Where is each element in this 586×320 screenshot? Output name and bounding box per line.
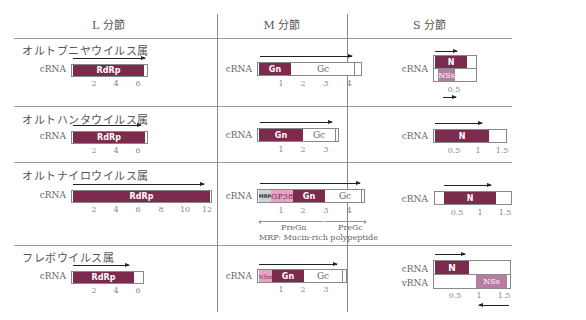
mrp-footnote: MRP: Mucin-rich polypeptide [259,233,378,242]
scale-tick: 3 [323,285,328,294]
direction-arrow [73,125,141,126]
scale-tick: 1 [475,146,480,155]
scale-tick: 1 [278,206,283,215]
n-gene: N [435,261,469,274]
gn-gene: Gn [259,129,303,141]
direction-arrow [443,97,456,98]
gn-gene: Gn [293,190,325,202]
rna-label: cRNA [222,191,252,201]
rna-label: cRNA [36,64,66,74]
s-segment-bar-lower: NSs [433,68,477,82]
scale-tick: 3 [323,145,328,154]
scale-tick: 4 [113,146,118,155]
rna-label: cRNA [398,131,428,141]
scale-tick: 0.5 [448,85,461,94]
n-gene: N [435,56,467,68]
scale-tick: 10 [180,205,190,214]
rna-label: cRNA [222,130,252,140]
header-l-segment: L 分節 [0,16,217,32]
direction-arrow [260,122,332,123]
n-gene: N [444,192,496,204]
column-divider-2 [347,14,348,312]
genus-phlebovirus: フレボウイルス属 [22,249,114,265]
l-segment-bar: RdRp [71,64,148,77]
scale-tick: 0.5 [449,291,462,300]
scale-tick: 2 [91,286,96,295]
direction-arrow [73,184,204,185]
gc-gene: Gc [303,129,335,141]
scale-tick: 0.5 [451,208,464,217]
scale-tick: 1.5 [499,208,512,217]
scale-tick: 4 [113,205,118,214]
scale-tick: 6 [135,205,140,214]
scale-tick: 1 [477,208,482,217]
mrp-gene: MRP [259,190,271,202]
scale-tick: 1 [476,291,481,300]
rdrp-gene: RdRp [73,65,144,76]
scale-tick: 6 [135,79,140,88]
scale-tick: 6 [135,146,140,155]
scale-tick: 1 [278,145,283,154]
header-s-segment: S 分節 [347,16,512,32]
gc-gene: Gc [304,270,342,282]
gp38-gene: GP38 [271,190,293,202]
pregc-label: PreGc [338,223,363,232]
pregn-range-arrow [259,221,324,222]
scale-tick: 2 [91,79,96,88]
scale-tick: 2 [300,285,305,294]
l-segment-bar: RdRp [71,131,148,144]
scale-tick: 1.5 [498,291,511,300]
rna-label: cRNA [222,271,252,281]
direction-arrow [259,264,337,265]
genus-orthonairovirus: オルトナイロウイルス属 [22,167,149,183]
column-divider-1 [217,14,218,312]
l-segment-bar: RdRp [71,271,144,284]
s-segment-bar-crna: N [433,260,511,275]
rdrp-gene: RdRp [73,272,134,283]
l-segment-bar: RdRp [71,190,212,203]
pregc-range-arrow [325,221,366,222]
row-divider-1 [14,106,512,107]
m-segment-bar: Gn Gc [257,128,339,142]
reverse-direction-arrow [479,305,509,306]
direction-arrow [444,185,491,186]
scale-tick: 3 [323,79,328,88]
rna-label: cRNA [398,64,428,74]
direction-arrow [435,123,482,124]
scale-tick: 1 [278,285,283,294]
direction-arrow [260,56,352,57]
row-divider-3 [14,245,512,246]
scale-tick: 2 [91,146,96,155]
direction-arrow [435,254,465,255]
scale-tick: 2 [300,206,305,215]
row-divider-2 [14,162,512,163]
scale-tick: 4 [346,206,351,215]
rna-label: cRNA [222,64,252,74]
header-divider [14,38,512,39]
scale-tick: 0.5 [448,146,461,155]
rna-label: cRNA [36,190,66,200]
s-segment-bar-upper: N [433,55,477,69]
m-segment-bar: NSm Gn Gc [257,269,347,283]
s-segment-bar-vrna: NSs [433,274,511,289]
gn-gene: Gn [259,63,291,75]
crna-label: cRNA [398,264,428,274]
pregn-label: PreGn [281,223,306,232]
scale-tick: 3 [323,206,328,215]
m-segment-bar: MRP GP38 Gn Gc [257,189,365,203]
m-segment-bar: Gn Gc [257,62,362,76]
scale-tick: 2 [91,205,96,214]
scale-tick: 6 [135,286,140,295]
scale-tick: 12 [202,205,212,214]
rdrp-gene: RdRp [73,191,210,202]
rna-label: cRNA [36,131,66,141]
direction-arrow [73,58,145,59]
nsm-gene: NSm [259,270,272,282]
header-m-segment: M 分節 [217,16,347,32]
utr-divider [342,270,343,282]
scale-tick: 2 [300,79,305,88]
utr-divider [361,190,362,202]
genus-orthobunyavirus: オルトブニヤウイルス属 [22,42,149,58]
scale-tick: 4 [113,79,118,88]
direction-arrow [435,51,457,52]
